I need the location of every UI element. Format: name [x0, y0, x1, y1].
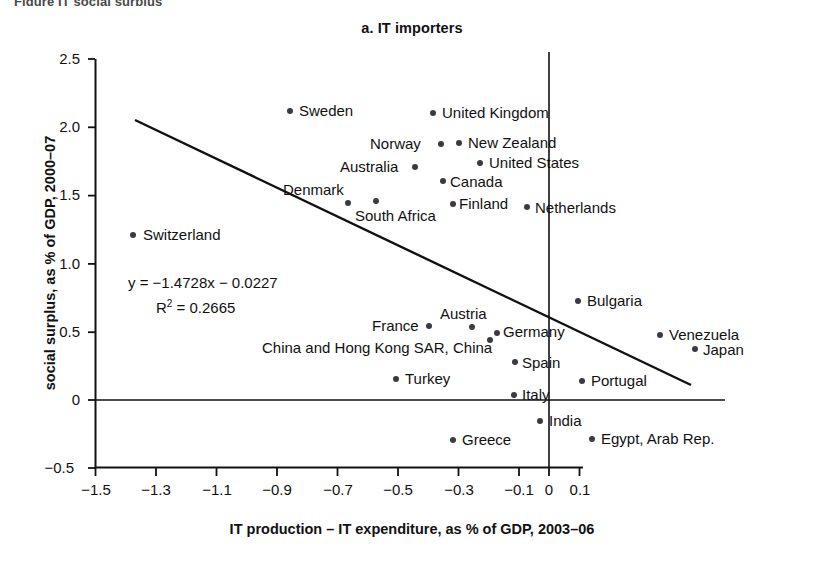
marker-italy	[511, 392, 517, 398]
marker-south-africa	[373, 198, 379, 204]
y-axis-title: social surplus, as % of GDP, 2000–07	[42, 53, 58, 473]
point-label-new-zealand: New Zealand	[468, 135, 556, 150]
marker-australia	[412, 164, 418, 170]
point-label-turkey: Turkey	[405, 371, 450, 386]
point-label-south-africa: South Africa	[355, 208, 436, 223]
marker-finland	[450, 201, 456, 207]
x-tick-label-minus-0.9: −0.9	[250, 481, 304, 498]
marker-japan	[692, 346, 698, 352]
point-label-austria: Austria	[440, 306, 487, 321]
point-label-denmark: Denmark	[283, 182, 344, 197]
marker-greece	[450, 437, 456, 443]
point-label-germany: Germany	[503, 324, 565, 339]
marker-spain	[512, 359, 518, 365]
point-label-australia: Australia	[340, 159, 398, 174]
marker-united-kingdom	[430, 110, 436, 116]
marker-germany	[494, 330, 500, 336]
marker-egypt	[589, 436, 595, 442]
marker-sweden	[287, 108, 293, 114]
r-squared-line: R2 = 0.2665	[128, 293, 278, 318]
point-label-china-hong-kong: China and Hong Kong SAR, China	[262, 340, 492, 355]
x-tick-label-minus-1.5: −1.5	[69, 481, 123, 498]
x-tick-label-minus-0.5: −0.5	[371, 481, 425, 498]
marker-denmark	[345, 200, 351, 206]
point-label-greece: Greece	[462, 432, 511, 447]
marker-turkey	[393, 376, 399, 382]
regression-equation-annotation: y = −1.4728x − 0.0227 R2 = 0.2665	[128, 272, 278, 318]
point-label-india: India	[549, 413, 582, 428]
point-label-japan: Japan	[703, 342, 744, 357]
x-tick-label-0.1: 0.1	[553, 481, 607, 498]
marker-bulgaria	[575, 298, 581, 304]
marker-united-states	[477, 160, 483, 166]
r-squared-symbol: R	[156, 299, 167, 316]
x-axis-title: IT production – IT expenditure, as % of …	[0, 521, 824, 537]
marker-venezuela	[657, 332, 663, 338]
r-squared-value: = 0.2665	[172, 299, 235, 316]
point-label-finland: Finland	[459, 196, 508, 211]
point-label-egypt: Egypt, Arab Rep.	[601, 431, 714, 446]
x-tick-label-minus-0.7: −0.7	[311, 481, 365, 498]
marker-norway	[438, 141, 444, 147]
point-label-venezuela: Venezuela	[669, 327, 739, 342]
marker-netherlands	[524, 204, 530, 210]
marker-switzerland	[130, 232, 136, 238]
equation-line: y = −1.4728x − 0.0227	[128, 274, 278, 291]
point-label-united-kingdom: United Kingdom	[442, 105, 549, 120]
point-label-norway: Norway	[370, 136, 421, 151]
point-label-switzerland: Switzerland	[143, 227, 221, 242]
point-label-italy: Italy	[522, 387, 550, 402]
point-label-united-states: United States	[489, 155, 579, 170]
point-label-portugal: Portugal	[591, 373, 647, 388]
point-label-netherlands: Netherlands	[535, 200, 616, 215]
x-tick-label-minus-1.1: −1.1	[190, 481, 244, 498]
marker-austria	[469, 324, 475, 330]
x-tick-label-minus-1.3: −1.3	[129, 481, 183, 498]
marker-portugal	[579, 378, 585, 384]
x-tick-label-minus-0.3: −0.3	[432, 481, 486, 498]
point-label-bulgaria: Bulgaria	[587, 293, 642, 308]
marker-canada	[440, 178, 446, 184]
scatter-plot-canvas	[0, 0, 824, 562]
y-axis-ticks	[88, 59, 95, 468]
point-label-france: France	[372, 318, 419, 333]
figure-panel: Figure IT social surplus a. IT importers	[0, 0, 824, 562]
x-axis-ticks	[96, 468, 580, 476]
point-label-sweden: Sweden	[299, 103, 353, 118]
marker-india	[537, 418, 543, 424]
marker-france	[426, 323, 432, 329]
point-label-spain: Spain	[522, 355, 560, 370]
marker-new-zealand	[456, 140, 462, 146]
point-label-canada: Canada	[450, 174, 503, 189]
